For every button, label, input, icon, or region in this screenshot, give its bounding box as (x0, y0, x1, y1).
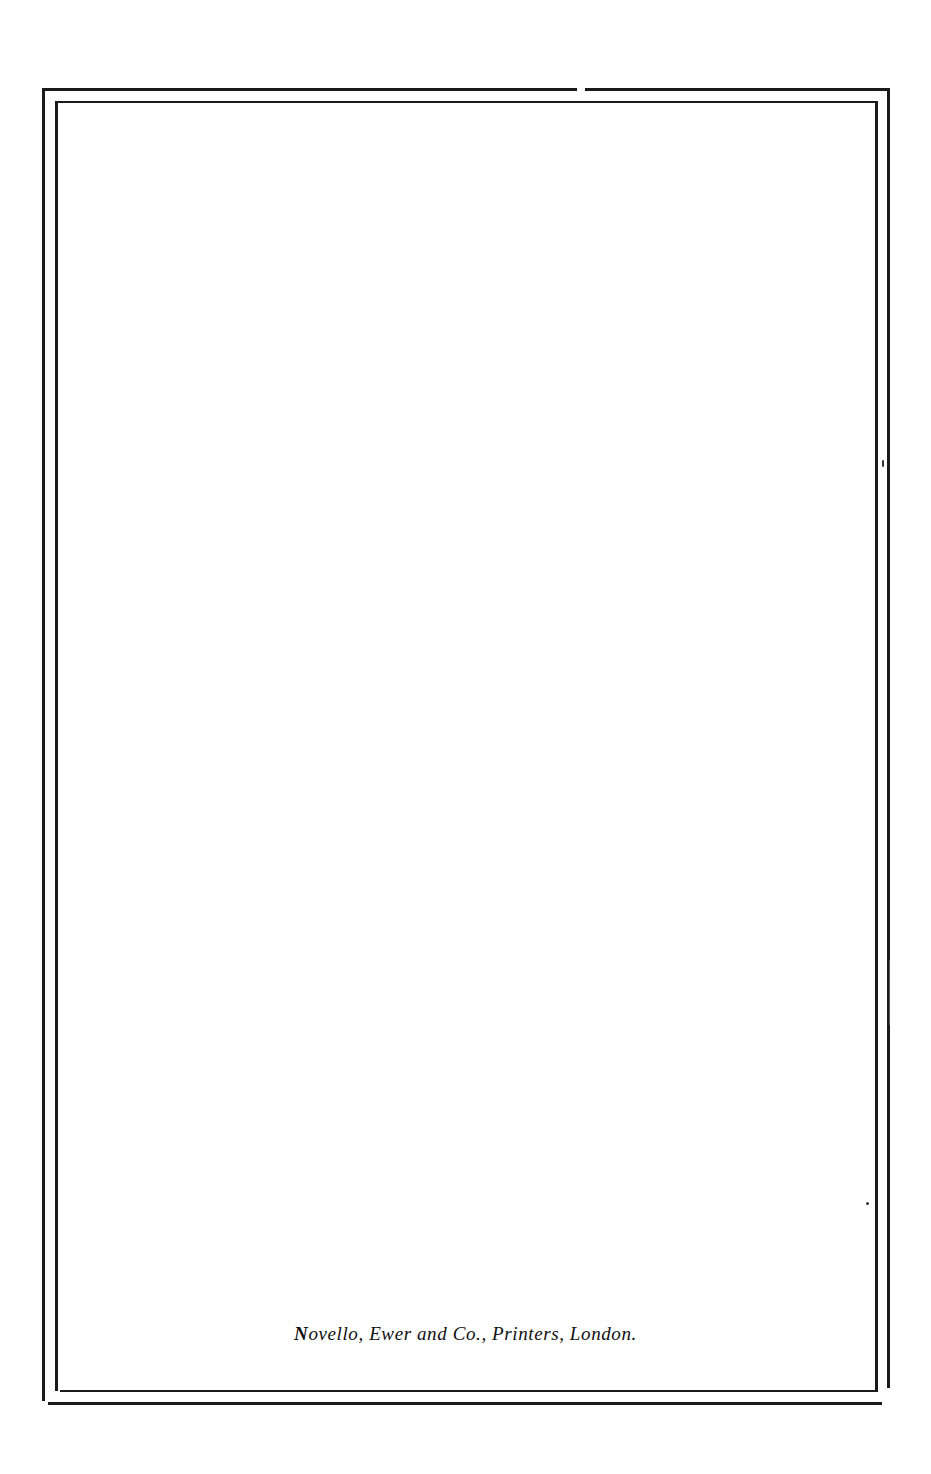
inner-frame-right-rule (875, 101, 878, 1391)
inner-frame-top-rule (55, 101, 877, 103)
ink-speck (882, 460, 884, 467)
outer-frame-bottom-rule (48, 1402, 882, 1405)
outer-frame-right-rule (887, 88, 890, 1388)
inner-frame-left-rule (55, 101, 58, 1391)
imprint-initial: N (294, 1323, 308, 1344)
outer-frame-left-rule (42, 88, 45, 1401)
printer-imprint: Novello, Ewer and Co., Printers, London. (0, 1323, 931, 1345)
frame-top-notch (577, 86, 585, 94)
outer-frame-top-rule (42, 88, 890, 91)
inner-frame-bottom-rule (60, 1390, 878, 1392)
imprint-text: ovello, Ewer and Co., Printers, London. (308, 1323, 636, 1344)
ink-speck (866, 1202, 869, 1205)
document-page: Novello, Ewer and Co., Printers, London. (0, 0, 931, 1474)
faint-margin-line (889, 960, 890, 1025)
